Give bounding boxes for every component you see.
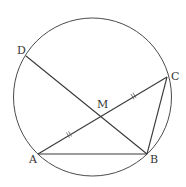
- point-label-M: M: [97, 98, 108, 111]
- geometry-diagram: A B C D M: [0, 0, 186, 187]
- point-label-D: D: [17, 44, 26, 57]
- point-label-B: B: [150, 153, 158, 166]
- point-label-A: A: [28, 153, 38, 166]
- segment-AC: [38, 77, 167, 154]
- point-label-C: C: [171, 70, 179, 83]
- segment-DB: [26, 56, 147, 154]
